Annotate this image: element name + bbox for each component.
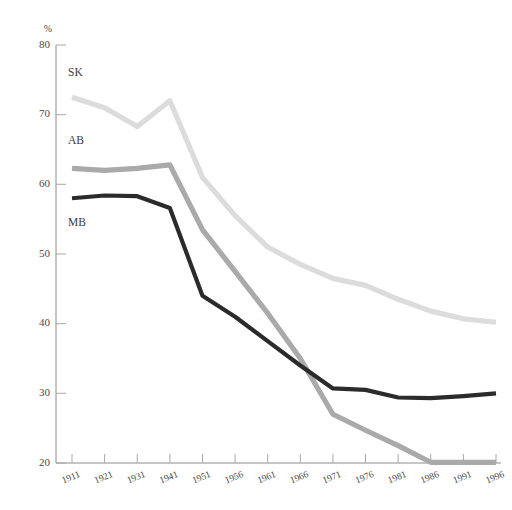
y-axis-label-60: 60 xyxy=(39,177,51,189)
x-axis-label-1996: 1996 xyxy=(484,469,506,485)
y-axis-labels: 80 70 60 50 40 30 20 xyxy=(39,38,51,468)
y-axis-ticks xyxy=(56,45,66,463)
y-axis-label-50: 50 xyxy=(39,247,51,259)
y-axis-label-30: 30 xyxy=(39,386,51,398)
x-axis-label-1951: 1951 xyxy=(191,469,213,485)
x-axis-label-1966: 1966 xyxy=(289,469,311,485)
series-group xyxy=(72,97,496,462)
x-axis-label-1976: 1976 xyxy=(354,469,376,485)
series-label-group: SKABMB xyxy=(68,66,86,228)
y-axis-label-70: 70 xyxy=(39,107,51,119)
chart-plot-area: % 80 70 60 50 40 30 20 19111921193119411… xyxy=(0,0,512,510)
x-axis-label-1911: 1911 xyxy=(60,469,81,485)
y-axis-label-40: 40 xyxy=(39,316,51,328)
series-line-mb xyxy=(72,195,496,398)
y-axis-label-80: 80 xyxy=(39,38,51,50)
x-axis-label-1941: 1941 xyxy=(158,469,180,485)
x-axis-label-1956: 1956 xyxy=(223,469,245,485)
x-axis-label-1981: 1981 xyxy=(386,469,408,485)
x-axis-label-1961: 1961 xyxy=(256,469,278,485)
x-axis-labels: 1911192119311941195119561961196619711976… xyxy=(60,469,505,485)
x-axis-label-1971: 1971 xyxy=(321,469,343,485)
series-label-ab: AB xyxy=(68,134,84,146)
series-label-sk: SK xyxy=(68,66,83,78)
x-axis-label-1986: 1986 xyxy=(419,469,441,485)
x-axis-label-1991: 1991 xyxy=(452,469,474,485)
line-chart: % 80 70 60 50 40 30 20 19111921193119411… xyxy=(0,0,512,510)
y-axis-label-20: 20 xyxy=(39,456,51,468)
y-axis-unit-label: % xyxy=(44,23,52,34)
series-label-mb: MB xyxy=(68,216,86,228)
x-axis-label-1921: 1921 xyxy=(93,469,115,485)
series-line-sk xyxy=(72,97,496,322)
x-axis-label-1931: 1931 xyxy=(125,469,147,485)
